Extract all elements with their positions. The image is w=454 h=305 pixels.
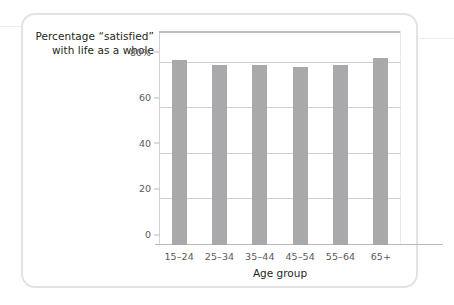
bar (212, 65, 227, 245)
y-axis-tick-label: 40 (139, 137, 159, 148)
bar (333, 65, 348, 245)
bar (172, 60, 187, 245)
chart-title-line-1: Percentage “satisfied” (10, 30, 154, 44)
plot-area: 80%6040200 (159, 31, 401, 245)
plot-inner-region: 80%6040200 (159, 33, 401, 245)
gridline (159, 198, 401, 199)
x-axis-tick-label: 25–34 (205, 251, 234, 262)
gridline (159, 62, 401, 63)
gridline (159, 107, 401, 108)
bar (373, 58, 388, 245)
y-axis-line (159, 33, 160, 245)
x-axis-tick-label: 35–44 (245, 251, 274, 262)
scan-artifact-line-left (0, 26, 22, 27)
y-axis-tick-label: 60 (139, 92, 159, 103)
y-axis-tick-label: 20 (139, 183, 159, 194)
x-axis-tick-label: 45–54 (285, 251, 314, 262)
x-axis-tick-label: 15–24 (164, 251, 193, 262)
bar (293, 67, 308, 245)
y-axis-tick-label: 0 (145, 229, 159, 240)
y-axis-tick-label: 80% (130, 46, 159, 57)
x-axis-tick-label: 55–64 (326, 251, 355, 262)
bar (252, 65, 267, 245)
x-axis-tick-label: 65+ (371, 251, 391, 262)
gridline (159, 153, 401, 154)
x-axis-title: Age group (159, 267, 401, 279)
